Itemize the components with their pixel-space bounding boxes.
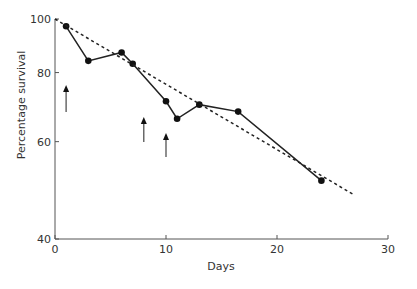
axes: 4060801000102030 (30, 13, 395, 256)
y-tick-label: 100 (30, 13, 51, 26)
data-point (235, 108, 242, 115)
data-point (85, 58, 92, 65)
data-point (318, 177, 325, 184)
arrow-up-icon (141, 117, 147, 142)
annotations-layer (63, 85, 169, 157)
arrow-up-icon (63, 85, 69, 112)
arrow-up-icon (163, 133, 169, 157)
y-axis-title: Percentage survival (15, 51, 28, 159)
y-tick-label: 40 (37, 233, 51, 246)
trend-line (55, 19, 355, 195)
x-tick-label: 20 (270, 243, 284, 256)
x-tick-label: 30 (381, 243, 395, 256)
data-point (163, 98, 170, 105)
x-tick-label: 10 (159, 243, 173, 256)
series-layer (55, 19, 355, 195)
x-tick-label: 0 (52, 243, 59, 256)
y-tick-label: 80 (37, 67, 51, 80)
survival-chart: 4060801000102030 Days Percentage surviva… (0, 0, 417, 289)
x-axis-title: Days (207, 260, 235, 273)
y-tick-label: 60 (37, 136, 51, 149)
survival-line (66, 26, 321, 180)
data-point (174, 115, 181, 122)
data-point (118, 49, 125, 56)
